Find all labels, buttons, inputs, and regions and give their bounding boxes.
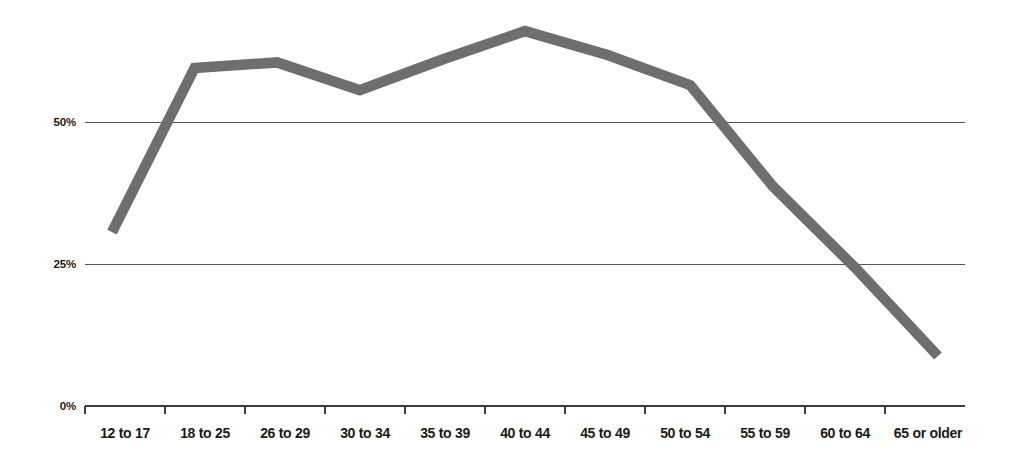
- y-tick-label-25: 25%: [54, 258, 76, 270]
- x-tick-label-35-to-39: 35 to 39: [420, 425, 470, 441]
- x-tick-label-65-or-older: 65 or older: [894, 425, 963, 441]
- y-tick-label-0: 0%: [60, 400, 76, 412]
- x-tick-labels-group: 12 to 17 18 to 25 26 to 29 30 to 34 35 t…: [100, 425, 963, 441]
- chart-canvas: 50% 25% 0% 12 to 17 18 to 25 26 to 29 30…: [0, 0, 1026, 474]
- x-tick-label-60-to-64: 60 to 64: [820, 425, 870, 441]
- x-tick-label-12-to-17: 12 to 17: [100, 425, 150, 441]
- y-tick-labels-group: 50% 25% 0%: [54, 116, 76, 412]
- x-tick-label-40-to-44: 40 to 44: [500, 425, 550, 441]
- x-tick-label-18-to-25: 18 to 25: [180, 425, 230, 441]
- line-chart: 50% 25% 0% 12 to 17 18 to 25 26 to 29 30…: [0, 0, 1026, 474]
- x-tick-label-50-to-54: 50 to 54: [660, 425, 710, 441]
- y-tick-label-50: 50%: [54, 116, 76, 128]
- data-series-group: [112, 31, 938, 356]
- x-tick-label-26-to-29: 26 to 29: [260, 425, 310, 441]
- x-tick-label-45-to-49: 45 to 49: [580, 425, 630, 441]
- x-tick-label-30-to-34: 30 to 34: [340, 425, 390, 441]
- x-tick-label-55-to-59: 55 to 59: [740, 425, 790, 441]
- data-line-series-1: [112, 31, 938, 356]
- x-axis-group: [85, 406, 965, 414]
